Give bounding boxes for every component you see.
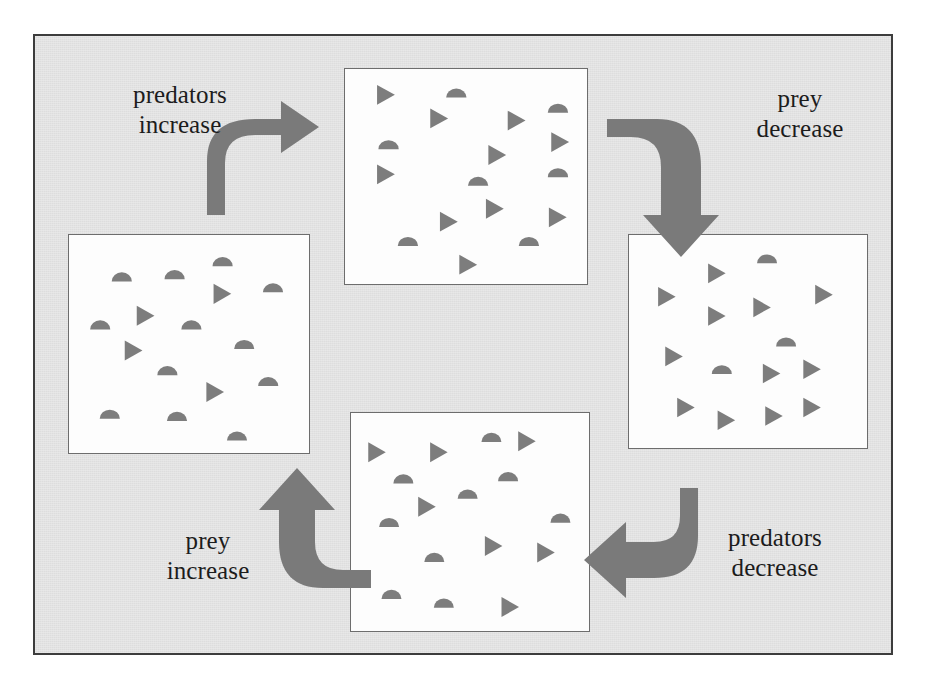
predator-triangle-icon xyxy=(763,364,781,384)
prey-semicircle-icon xyxy=(458,490,478,499)
predator-triangle-icon xyxy=(418,497,436,517)
predator-triangle-icon xyxy=(486,199,504,219)
prey-semicircle-icon xyxy=(112,272,132,281)
label-prey-decrease: prey decrease xyxy=(725,84,875,143)
predator-triangle-icon xyxy=(753,298,771,318)
prey-semicircle-icon xyxy=(776,337,796,346)
population-box-bottom-shapes xyxy=(351,413,589,631)
predator-triangle-icon xyxy=(368,442,386,462)
population-box-bottom xyxy=(350,412,590,632)
predator-triangle-icon xyxy=(488,145,506,165)
prey-semicircle-icon xyxy=(234,340,254,349)
diagram-canvas: predators increase prey decrease predato… xyxy=(0,0,937,698)
population-box-left-shapes xyxy=(69,235,309,453)
predator-triangle-icon xyxy=(815,285,833,305)
prey-semicircle-icon xyxy=(157,366,177,375)
prey-semicircle-icon xyxy=(498,472,518,481)
prey-semicircle-icon xyxy=(468,177,488,186)
prey-semicircle-icon xyxy=(381,590,401,599)
prey-semicircle-icon xyxy=(378,140,398,149)
prey-semicircle-icon xyxy=(100,410,120,419)
prey-semicircle-icon xyxy=(167,412,187,421)
prey-semicircle-icon xyxy=(548,104,568,113)
population-box-top-shapes xyxy=(345,69,587,284)
predator-triangle-icon xyxy=(137,306,155,326)
predator-triangle-icon xyxy=(440,212,458,232)
prey-semicircle-icon xyxy=(181,320,201,329)
prey-semicircle-icon xyxy=(90,320,110,329)
prey-semicircle-icon xyxy=(398,237,418,246)
predator-triangle-icon xyxy=(665,347,683,367)
predator-triangle-icon xyxy=(459,255,477,275)
prey-semicircle-icon xyxy=(424,553,444,562)
predator-triangle-icon xyxy=(551,132,569,152)
prey-semicircle-icon xyxy=(757,254,777,263)
predator-triangle-icon xyxy=(677,398,695,418)
predator-triangle-icon xyxy=(708,306,726,326)
population-box-right xyxy=(628,234,868,449)
prey-semicircle-icon xyxy=(379,518,399,527)
prey-semicircle-icon xyxy=(548,168,568,177)
prey-semicircle-icon xyxy=(393,474,413,483)
predator-triangle-icon xyxy=(508,111,526,131)
predator-triangle-icon xyxy=(708,264,726,284)
label-predators-decrease: predators decrease xyxy=(675,523,875,582)
predator-triangle-icon xyxy=(485,536,503,556)
predator-triangle-icon xyxy=(377,164,395,184)
predator-triangle-icon xyxy=(502,597,520,617)
prey-semicircle-icon xyxy=(481,433,501,442)
arrow-prey-decrease-icon xyxy=(605,111,725,261)
prey-semicircle-icon xyxy=(434,599,454,608)
prey-semicircle-icon xyxy=(227,431,247,440)
predator-triangle-icon xyxy=(803,359,821,379)
prey-semicircle-icon xyxy=(263,283,283,292)
predator-triangle-icon xyxy=(658,287,676,307)
predator-triangle-icon xyxy=(537,542,555,562)
predator-triangle-icon xyxy=(430,109,448,129)
predator-triangle-icon xyxy=(803,398,821,418)
population-box-right-shapes xyxy=(629,235,867,448)
label-predators-increase: predators increase xyxy=(85,80,275,139)
population-box-left xyxy=(68,234,310,454)
predator-triangle-icon xyxy=(518,431,536,451)
predator-triangle-icon xyxy=(765,406,783,426)
predator-triangle-icon xyxy=(430,442,448,462)
prey-semicircle-icon xyxy=(213,257,233,266)
predator-triangle-icon xyxy=(125,341,143,361)
prey-semicircle-icon xyxy=(165,270,185,279)
population-box-top xyxy=(344,68,588,285)
prey-semicircle-icon xyxy=(258,377,278,386)
label-prey-increase: prey increase xyxy=(133,526,283,585)
prey-semicircle-icon xyxy=(712,365,732,374)
prey-semicircle-icon xyxy=(519,237,539,246)
diagram-panel: predators increase prey decrease predato… xyxy=(33,34,893,655)
predator-triangle-icon xyxy=(214,284,232,304)
predator-triangle-icon xyxy=(718,411,736,431)
predator-triangle-icon xyxy=(377,85,395,105)
prey-semicircle-icon xyxy=(446,89,466,98)
predator-triangle-icon xyxy=(549,207,567,227)
predator-triangle-icon xyxy=(206,382,224,402)
prey-semicircle-icon xyxy=(550,514,570,523)
